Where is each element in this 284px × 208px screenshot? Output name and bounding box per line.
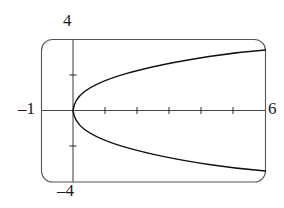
graph-canvas	[0, 0, 284, 208]
y-max-label: 4	[63, 12, 72, 29]
x-min-label: –1	[18, 100, 35, 117]
y-min-label: –4	[57, 182, 74, 199]
x-max-label: 6	[268, 100, 277, 117]
graph-viewport: 4 –4 –1 6	[0, 0, 284, 208]
